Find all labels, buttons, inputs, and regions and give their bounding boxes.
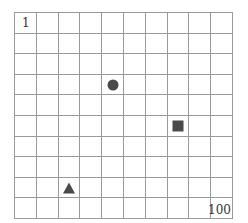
- grid-cell: [80, 157, 102, 178]
- grid-cell: [146, 95, 168, 116]
- grid-cell: 1: [15, 13, 37, 34]
- grid-cell: [124, 178, 146, 199]
- grid-cell: [15, 34, 37, 55]
- grid-cell: [37, 178, 59, 199]
- grid-cell: [102, 13, 124, 34]
- grid-cell: [168, 137, 190, 158]
- grid-cell: [59, 54, 81, 75]
- grid-cell: [37, 34, 59, 55]
- grid-cell: [146, 157, 168, 178]
- grid-cell: [189, 34, 211, 55]
- grid-cell: [189, 95, 211, 116]
- grid-cell: [189, 54, 211, 75]
- square-icon: [172, 120, 183, 131]
- grid-cell: [168, 95, 190, 116]
- grid-cell: [124, 95, 146, 116]
- grid-cell: [102, 198, 124, 219]
- grid-cell: [102, 34, 124, 55]
- grid-cell: [37, 54, 59, 75]
- grid-cell: [59, 13, 81, 34]
- grid-cell: [146, 34, 168, 55]
- grid-cell: [59, 137, 81, 158]
- grid-cell: [15, 116, 37, 137]
- grid-cell: [168, 157, 190, 178]
- grid-cell: [146, 116, 168, 137]
- grid-cell: [168, 54, 190, 75]
- grid-cell: [15, 198, 37, 219]
- grid-cell: [211, 34, 233, 55]
- grid-cell: [124, 54, 146, 75]
- grid-cell: [168, 116, 190, 137]
- grid-cell: [168, 13, 190, 34]
- end-label: 100: [208, 204, 231, 216]
- grid-cell: [124, 198, 146, 219]
- grid-cell: [168, 75, 190, 96]
- grid-cell: [211, 137, 233, 158]
- grid-cell: [37, 198, 59, 219]
- grid-cell: [80, 116, 102, 137]
- grid-cell: [15, 54, 37, 75]
- grid-cell: [80, 54, 102, 75]
- grid-cell: [80, 75, 102, 96]
- grid-cell: [80, 137, 102, 158]
- grid-cell: [102, 75, 124, 96]
- circle-icon: [107, 79, 118, 90]
- grid-cell: [189, 178, 211, 199]
- grid-cell: [124, 13, 146, 34]
- grid-cell: [59, 178, 81, 199]
- grid-cell: [80, 13, 102, 34]
- grid-cell: [80, 198, 102, 219]
- triangle-icon: [63, 182, 75, 193]
- start-label: 1: [22, 17, 30, 29]
- grid-cell: [80, 34, 102, 55]
- grid-cell: [168, 178, 190, 199]
- grid-cell: [211, 95, 233, 116]
- grid-cell: [146, 54, 168, 75]
- grid-cell: [189, 75, 211, 96]
- grid-cell: [168, 34, 190, 55]
- grid-cell: [59, 34, 81, 55]
- number-grid: 1100: [14, 12, 233, 219]
- grid-cell: [189, 137, 211, 158]
- grid-cell: [15, 137, 37, 158]
- grid-cell: [189, 116, 211, 137]
- grid-cell: [102, 157, 124, 178]
- grid-cell: [15, 157, 37, 178]
- grid-cell: [37, 137, 59, 158]
- grid-cell: [59, 75, 81, 96]
- grid-cell: [102, 178, 124, 199]
- grid-cell: [124, 157, 146, 178]
- grid-cell: [124, 137, 146, 158]
- grid-cell: [211, 13, 233, 34]
- grid-cell: [37, 157, 59, 178]
- grid-cell: [37, 13, 59, 34]
- grid-cell: [124, 75, 146, 96]
- grid-cell: [59, 198, 81, 219]
- grid-cell: [102, 116, 124, 137]
- grid-cell: [211, 178, 233, 199]
- grid-cell: [59, 157, 81, 178]
- grid-cell: [146, 137, 168, 158]
- grid-cell: [146, 198, 168, 219]
- grid-cell: [37, 75, 59, 96]
- grid-cell: [189, 157, 211, 178]
- grid-cell: [124, 116, 146, 137]
- grid-cell: [102, 54, 124, 75]
- grid-cell: [211, 157, 233, 178]
- grid-cell: [59, 95, 81, 116]
- grid-cell: [146, 178, 168, 199]
- grid-cell: [102, 137, 124, 158]
- grid-cell: [59, 116, 81, 137]
- grid-cell: [146, 75, 168, 96]
- grid-cell: [146, 13, 168, 34]
- grid-cell: [211, 75, 233, 96]
- grid-cell: [37, 95, 59, 116]
- grid-cell: [15, 178, 37, 199]
- grid-cell: [102, 95, 124, 116]
- grid-cell: [124, 34, 146, 55]
- grid-cell: [189, 13, 211, 34]
- grid-cell: 100: [211, 198, 233, 219]
- grid-cell: [15, 95, 37, 116]
- grid-cell: [15, 75, 37, 96]
- grid-cell: [211, 116, 233, 137]
